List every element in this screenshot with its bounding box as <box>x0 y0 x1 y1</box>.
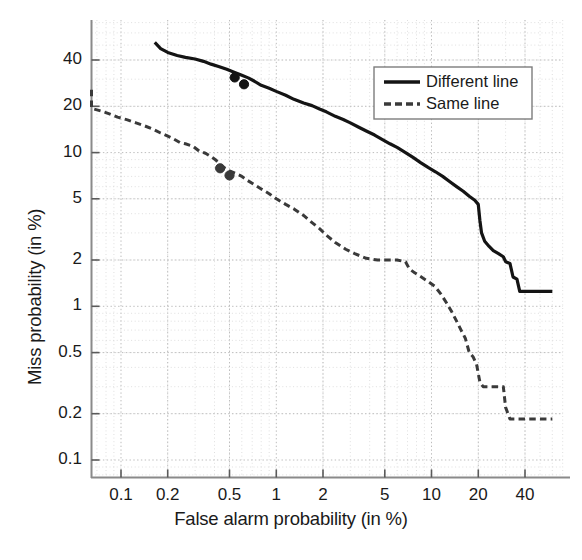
y-tick-label: 40 <box>20 49 82 69</box>
data-markers-layer <box>216 73 249 180</box>
y-tick-label: 0.2 <box>20 403 82 423</box>
x-tick-label: 20 <box>453 485 503 505</box>
x-tick-label: 40 <box>500 485 550 505</box>
series-marker <box>216 164 225 173</box>
y-tick-label: 20 <box>20 95 82 115</box>
legend-label-different-line: Different line <box>426 72 518 91</box>
series-marker <box>239 80 248 89</box>
x-tick-label: 1 <box>251 485 301 505</box>
x-tick-label: 0.5 <box>205 485 255 505</box>
x-tick-label: 5 <box>360 485 410 505</box>
x-tick-label: 0.1 <box>96 485 146 505</box>
legend-label-same-line: Same line <box>426 94 499 113</box>
y-tick-label: 5 <box>20 188 82 208</box>
det-curve-chart: Different line Same line False alarm pro… <box>0 0 582 560</box>
series-marker <box>230 73 239 82</box>
x-tick-label: 0.2 <box>143 485 193 505</box>
y-tick-label: 10 <box>20 142 82 162</box>
series-line-same-line <box>92 90 553 419</box>
x-tick-label: 10 <box>407 485 457 505</box>
y-tick-label: 0.5 <box>20 342 82 362</box>
x-tick-label: 2 <box>298 485 348 505</box>
y-tick-label: 2 <box>20 249 82 269</box>
x-axis-label: False alarm probability (in %) <box>0 508 582 530</box>
y-axis-ticks <box>92 60 100 460</box>
series-marker <box>225 171 234 180</box>
x-axis-ticks <box>121 470 525 478</box>
y-tick-label: 0.1 <box>20 449 82 469</box>
y-tick-label: 1 <box>20 295 82 315</box>
